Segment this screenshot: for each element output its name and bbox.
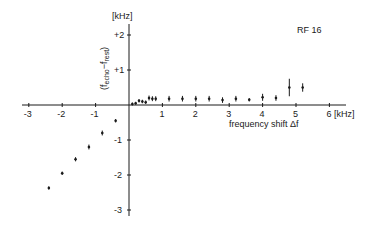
point-marker (301, 86, 304, 89)
point-marker (131, 103, 134, 106)
y-label-sub-echo: echo (103, 69, 110, 84)
data-point (144, 100, 147, 104)
point-marker (138, 100, 141, 103)
x-tick-label: 4 (260, 109, 265, 119)
y-ticks: +2+1-1-2-3 (114, 30, 131, 215)
y-tick-label: -2 (114, 170, 122, 180)
point-marker (141, 100, 144, 103)
x-tick-label: -1 (91, 109, 99, 119)
y-axis-unit: [kHz] (112, 11, 133, 21)
data-points (48, 79, 304, 190)
data-point (301, 83, 304, 91)
data-point (114, 119, 117, 123)
data-point (275, 95, 278, 101)
data-point (88, 145, 91, 150)
data-point (248, 98, 251, 102)
point-marker (154, 97, 157, 100)
data-point (168, 96, 171, 102)
data-point (148, 96, 151, 101)
x-tick-label: 5 (293, 109, 298, 119)
data-point (181, 96, 184, 102)
data-point (195, 96, 198, 102)
data-point (134, 102, 137, 105)
point-marker (114, 119, 117, 122)
y-tick-label: +2 (114, 30, 124, 40)
point-marker (261, 96, 264, 99)
data-point (288, 79, 291, 97)
data-point (154, 96, 157, 101)
point-marker (168, 97, 171, 100)
data-point (151, 96, 154, 101)
y-axis-label: (fecho−frest) (99, 47, 110, 90)
y-tick-label: -3 (114, 205, 122, 215)
point-marker (48, 187, 51, 190)
point-marker (144, 101, 147, 104)
x-tick-label: 1 (159, 109, 164, 119)
data-point (74, 157, 77, 161)
point-marker (235, 97, 238, 100)
y-tick-label: +1 (114, 65, 124, 75)
point-marker (148, 97, 151, 100)
scatter-chart: -3-2-1123456 [kHz] +2+1-1-2-3 RF 16 freq… (0, 0, 373, 226)
data-point (48, 186, 51, 190)
x-tick-label: 6 [kHz] (326, 109, 354, 119)
point-marker (74, 158, 77, 161)
x-axis-label: frequency shift Δf (229, 119, 299, 129)
data-point (235, 96, 238, 102)
x-tick-label: -3 (24, 109, 32, 119)
chart-title: RF 16 (297, 25, 322, 35)
point-marker (275, 97, 278, 100)
point-marker (151, 97, 154, 100)
point-marker (248, 98, 251, 101)
x-tick-label: 2 (193, 109, 198, 119)
data-point (221, 97, 224, 103)
point-marker (181, 97, 184, 100)
point-marker (61, 172, 64, 175)
point-marker (101, 132, 104, 135)
data-point (138, 99, 141, 103)
point-marker (288, 86, 291, 89)
data-point (208, 96, 211, 102)
point-marker (195, 97, 198, 100)
point-marker (208, 97, 211, 100)
point-marker (134, 102, 137, 105)
y-label-sub-rest: rest (103, 50, 110, 62)
x-tick-label: -2 (57, 109, 65, 119)
data-point (261, 94, 264, 101)
y-label-part: ) (99, 47, 109, 50)
data-point (61, 172, 64, 176)
point-marker (88, 146, 91, 149)
y-tick-label: -1 (114, 135, 122, 145)
point-marker (221, 99, 224, 102)
data-point (141, 100, 144, 104)
data-point (101, 131, 104, 136)
x-tick-label: 3 (226, 109, 231, 119)
